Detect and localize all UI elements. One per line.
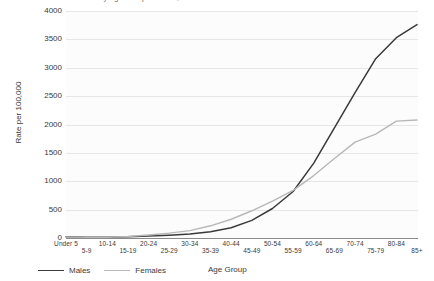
x-axis-tick-label: 10-14 (99, 240, 116, 247)
x-axis-tick-label: 85+ (411, 247, 422, 254)
plot-area (66, 11, 418, 238)
legend-label: Males (69, 266, 90, 275)
series-lines (66, 11, 418, 238)
y-axis-tick-label: 1500 (28, 148, 62, 157)
x-axis-baseline (66, 238, 418, 239)
x-axis-tick-label: 45-49 (243, 247, 260, 254)
y-axis-tick-labels: 40003500300025002000150010005000 (22, 0, 62, 281)
y-axis-tick-label: 4000 (28, 6, 62, 15)
y-axis-tick-label: 500 (28, 205, 62, 214)
legend-item-females[interactable]: Females (104, 266, 166, 275)
legend-label: Females (135, 266, 166, 275)
y-axis-tick-label: 3500 (28, 34, 62, 43)
legend-swatch-females (104, 270, 130, 271)
x-axis-tick-label: 35-39 (202, 247, 219, 254)
y-axis-tick-label: 2000 (28, 120, 62, 129)
x-axis-tick-label: 75-79 (367, 247, 384, 254)
x-axis-tick-label: 60-64 (305, 240, 322, 247)
chart-legend: MalesFemales (38, 264, 180, 276)
x-axis-tick-label: 55-59 (285, 247, 302, 254)
line-chart: Rate of Cancer Incidence by Age Group an… (0, 0, 434, 281)
x-axis-tick-label: 50-54 (264, 240, 281, 247)
x-axis-tick-label: 20-24 (140, 240, 157, 247)
x-axis-tick-labels: Under 55-910-1415-1920-2425-2930-3435-39… (66, 240, 426, 260)
x-axis-tick-label: 65-69 (326, 247, 343, 254)
x-axis-tick-label: 70-74 (346, 240, 363, 247)
x-axis-tick-label: 30-34 (181, 240, 198, 247)
legend-item-males[interactable]: Males (38, 266, 90, 275)
x-axis-tick-label: 80-84 (388, 240, 405, 247)
x-axis-tick-label: 40-44 (223, 240, 240, 247)
x-axis-tick-label: Under 5 (54, 240, 78, 247)
x-axis-title: Age Group (208, 265, 247, 274)
x-axis-tick-label: 5-9 (82, 247, 92, 254)
x-axis-tick-label: 15-19 (119, 247, 136, 254)
x-axis-tick-label: 25-29 (161, 247, 178, 254)
y-axis-tick-label: 1000 (28, 176, 62, 185)
legend-swatch-males (38, 270, 64, 271)
y-axis-tick-label: 3000 (28, 63, 62, 72)
series-line-males (66, 25, 417, 238)
series-line-females (66, 120, 417, 237)
y-axis-tick-label: 2500 (28, 91, 62, 100)
